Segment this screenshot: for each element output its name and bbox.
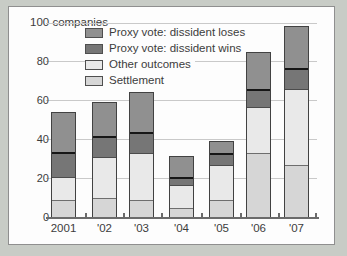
legend-swatch-icon [85,44,103,54]
chart-panel: 100 companies 0204060802001'02'03'04'05'… [8,6,335,245]
y-axis-label-40: 40 [15,133,49,146]
x-axis-label-03: '03 [122,222,162,235]
x-axis-label-02: '02 [85,222,125,235]
bar-segment [130,132,153,153]
y-axis-label-60: 60 [15,94,49,107]
bar-segment [247,53,270,90]
x-axis-tick [85,213,87,217]
bar-segment [285,68,308,89]
y-axis-label-20: 20 [15,172,49,185]
y-axis-label-80: 80 [15,55,49,68]
bar-segment [52,152,75,177]
x-axis-tick [240,213,242,217]
legend-label: Proxy vote: dissident wins [109,42,241,55]
bar-07 [284,26,309,218]
x-axis-label-2001: 2001 [44,222,84,235]
bar-segment [170,185,193,208]
gridline-40 [46,139,317,140]
figure: 100 companies 0204060802001'02'03'04'05'… [0,0,347,256]
plot-area: 100 companies 0204060802001'02'03'04'05'… [9,7,334,244]
bar-segment [170,177,193,185]
bar-06 [246,52,271,219]
x-axis-tick [161,213,163,217]
bar-segment [285,27,308,68]
x-axis-tick [278,213,280,217]
legend-item: Proxy vote: dissident wins [85,42,245,55]
gridline-100 [46,23,317,24]
gridline-60 [46,100,317,101]
legend-label: Other outcomes [109,58,191,71]
bar-05 [209,141,234,219]
bar-segment [247,89,270,106]
bar-segment [247,107,270,154]
bar-segment [52,177,75,200]
legend-swatch-icon [85,60,103,70]
legend-label: Settlement [109,74,164,87]
bar-segment [210,142,233,154]
bar-segment [247,153,270,217]
bar-2001 [51,112,76,219]
legend-item: Settlement [85,74,168,87]
bar-segment [210,153,233,165]
bar-segment [130,153,153,200]
x-axis-tick [201,213,203,217]
bar-segment [285,89,308,165]
legend-swatch-icon [85,76,103,86]
bar-04 [169,156,194,218]
bar-03 [129,92,154,218]
bar-segment [130,200,153,217]
bar-segment [52,113,75,152]
legend-swatch-icon [85,28,103,38]
x-axis-tick [123,213,125,217]
x-axis-label-05: '05 [202,222,242,235]
x-axis-tick [315,213,317,217]
bar-segment [93,157,116,198]
legend-item: Other outcomes [85,58,195,71]
bar-segment [93,136,116,157]
bar-segment [210,200,233,217]
bar-segment [170,157,193,176]
legend-label: Proxy vote: dissident loses [109,26,245,39]
x-axis-label-07: '07 [277,222,317,235]
bar-segment [285,165,308,217]
x-axis-label-06: '06 [239,222,279,235]
bar-segment [93,103,116,136]
x-axis-line [46,217,319,219]
bar-segment [130,93,153,132]
bar-segment [52,200,75,217]
bar-02 [92,102,117,218]
x-axis-label-04: '04 [162,222,202,235]
legend-item: Proxy vote: dissident loses [85,26,249,39]
bar-segment [210,165,233,200]
bar-segment [93,198,116,217]
